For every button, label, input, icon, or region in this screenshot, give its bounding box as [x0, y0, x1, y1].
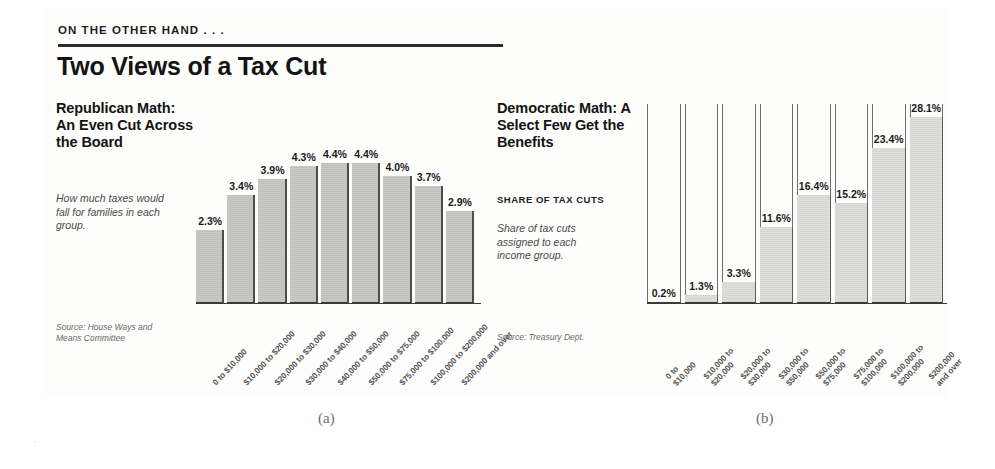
bar [647, 302, 681, 304]
figure-caption-a: (a) [318, 410, 335, 427]
bar [352, 163, 380, 304]
chart-republican-math: 2.3%3.4%3.9%4.3%4.4%4.4%4.0%3.7%2.9% 0 t… [196, 100, 481, 400]
figure-plate: ON THE OTHER HAND . . . Two Views of a T… [42, 8, 947, 398]
panel-b-source: Source: Treasury Dept. [497, 332, 601, 343]
panel-a-source: Source: House Ways and Means Committee [56, 322, 164, 344]
bar [290, 166, 318, 304]
bar [835, 203, 869, 304]
panel-b-blurb: Share of tax cuts assigned to each incom… [497, 222, 593, 263]
bar-value-label: 28.1% [911, 102, 941, 114]
chart-democratic-math: 0.2%1.3%3.3%11.6%16.4%15.2%23.4%28.1% 0 … [647, 100, 947, 400]
panel-b-title: Democratic Math: A Select Few Get the Be… [497, 100, 635, 151]
tick-label: $100,000 to $200,000 [429, 322, 490, 387]
bar-value-label: 15.2% [836, 188, 866, 200]
bar [760, 227, 794, 304]
bar-value-label: 4.3% [292, 151, 316, 163]
panel-a-title: Republican Math: An Even Cut Across the … [56, 100, 196, 151]
panel-a-blurb: How much taxes would fall for families i… [56, 192, 178, 233]
bar-value-label: 3.3% [727, 267, 751, 279]
bar [321, 163, 349, 304]
bar [722, 282, 756, 304]
panel-b-subhead: SHARE OF TAX CUTS [497, 194, 617, 206]
bar-value-label: 3.9% [261, 164, 285, 176]
tick-label: $100,000 to $200,000 [889, 343, 933, 388]
tick-label: $75,000 to $100,000 [852, 346, 893, 388]
tick-label: $10,000 to $20,000 [702, 346, 743, 388]
kicker-label: ON THE OTHER HAND . . . [58, 24, 225, 36]
bar-value-label: 2.9% [448, 196, 472, 208]
bar-value-label: 3.4% [229, 180, 253, 192]
tick-label: $20,000 to $30,000 [739, 346, 780, 388]
tick-label: $75,000 to $100,000 [398, 326, 456, 387]
bar-value-label: 16.4% [799, 180, 829, 192]
panel-republican-math: Republican Math: An Even Cut Across the … [56, 100, 481, 400]
bar [910, 117, 944, 304]
tick-label: $30,000 to $50,000 [777, 346, 818, 388]
bar-channel [647, 104, 681, 304]
bar-value-label: 4.4% [354, 148, 378, 160]
page-title: Two Views of a Tax Cut [57, 52, 326, 81]
bar-value-label: 23.4% [874, 133, 904, 145]
bar [258, 179, 286, 304]
page-corner-mark: . [34, 434, 37, 444]
bar [685, 295, 719, 304]
panel-democratic-math: Democratic Math: A Select Few Get the Be… [497, 100, 947, 400]
bar-value-label: 11.6% [762, 212, 791, 224]
bar-channel [685, 104, 719, 304]
bar-value-label: 2.3% [198, 215, 222, 227]
bar [227, 195, 255, 304]
bar [196, 230, 224, 304]
tick-label: $10,000 to $20,000 [242, 329, 297, 387]
tick-label: 0 to $10,000 [664, 354, 698, 388]
bar [872, 148, 906, 304]
bar [446, 211, 474, 304]
bar-value-label: 4.0% [385, 161, 409, 173]
tick-label: $50,000 to $75,000 [814, 346, 855, 388]
bar-value-label: 4.4% [323, 148, 347, 160]
bar-value-label: 1.3% [689, 280, 713, 292]
figure-caption-b: (b) [756, 410, 774, 427]
bar-value-label: 0.2% [652, 287, 676, 299]
header-rule [58, 44, 503, 47]
bar [797, 195, 831, 304]
figure-page: ON THE OTHER HAND . . . Two Views of a T… [0, 0, 995, 469]
bar [383, 176, 411, 304]
bar-value-label: 3.7% [417, 171, 441, 183]
bar [415, 186, 443, 304]
